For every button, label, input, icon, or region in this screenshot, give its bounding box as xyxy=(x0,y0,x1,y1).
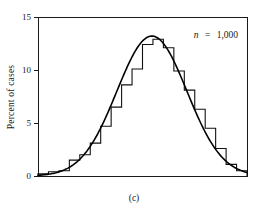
histogram-steps xyxy=(38,39,247,176)
y-axis-title: Percent of cases xyxy=(6,65,16,129)
figure-caption: (c) xyxy=(129,193,140,204)
y-tick-label-15: 15 xyxy=(22,12,32,22)
y-tick-label-0: 0 xyxy=(27,171,32,181)
y-axis-tick-labels: 0 5 10 15 xyxy=(22,12,32,181)
sample-size-value: 1,000 xyxy=(217,30,239,40)
histogram-chart: 0 5 10 15 Percent of cases n = 1,000 (c) xyxy=(0,0,267,213)
y-axis-ticks xyxy=(34,17,38,176)
figure-container: 0 5 10 15 Percent of cases n = 1,000 (c) xyxy=(0,0,267,213)
sample-size-equals: = xyxy=(205,30,210,40)
y-tick-label-10: 10 xyxy=(22,65,32,75)
sample-size-symbol: n xyxy=(194,30,199,40)
sample-size-annotation: n = 1,000 xyxy=(194,30,238,40)
y-tick-label-5: 5 xyxy=(27,118,32,128)
